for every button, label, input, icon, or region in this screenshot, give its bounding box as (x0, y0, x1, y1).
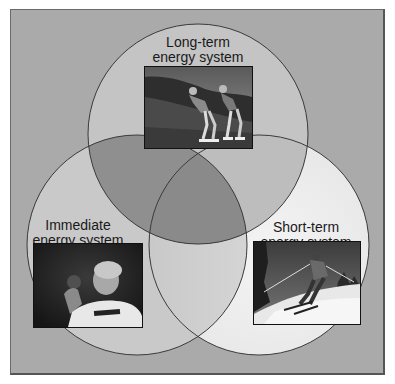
label-long-term-line2: energy system (148, 50, 248, 65)
label-short-term-line1: Short-term (256, 220, 356, 235)
label-long-term-line1: Long-term (148, 35, 248, 50)
photo-long-term-skaters (144, 66, 253, 149)
photo-immediate-shot-putter (33, 243, 143, 328)
label-long-term: Long-term energy system (148, 35, 248, 65)
label-immediate-line1: Immediate (28, 218, 128, 233)
venn-diagram-frame: Long-term energy system (10, 9, 385, 375)
photo-short-term-skier (253, 241, 361, 325)
